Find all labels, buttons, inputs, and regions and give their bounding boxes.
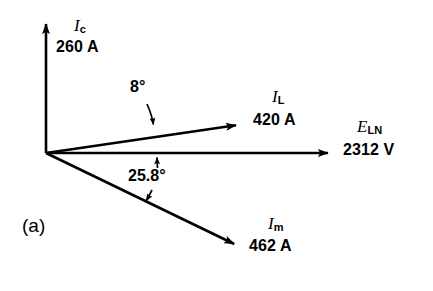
angle-label-il: 8° [130, 79, 145, 95]
panel-label: (a) [22, 216, 45, 235]
phasor-diagram-figure: Ic 260 A IL 420 A ELN 2312 V Im 462 A 8°… [0, 0, 433, 291]
phasor-arrow-il [46, 125, 236, 153]
phasor-label-im-symbol: Im [268, 215, 284, 233]
phasor-label-eln-symbol: ELN [357, 118, 382, 136]
leader-line-angle-im-lower [146, 190, 152, 201]
leader-line-angle-il [147, 104, 153, 125]
phasor-label-eln-value: 2312 V [343, 142, 394, 158]
phasor-label-im-value: 462 A [249, 238, 292, 254]
angle-label-im: 25.8° [128, 168, 166, 184]
phasor-label-ic-value: 260 A [56, 39, 99, 55]
phasor-label-il-value: 420 A [253, 112, 296, 128]
phasor-label-ic-symbol: Ic [74, 17, 86, 35]
phasor-label-il-symbol: IL [272, 88, 285, 106]
